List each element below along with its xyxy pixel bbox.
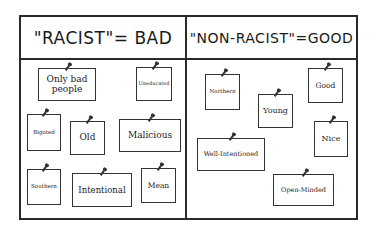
header-divider <box>19 58 358 60</box>
note-label: Open-Minded <box>281 187 326 194</box>
sticky-note-only-bad-people: Only bad people <box>38 68 96 101</box>
note-label: Mean <box>148 182 169 190</box>
sticky-note-uneducated: Uneducated <box>136 67 172 101</box>
sticky-note-open-minded: Open-Minded <box>273 174 334 206</box>
note-label: Good <box>316 82 336 90</box>
sticky-note-well-intentioned: Well-Intentioned <box>197 138 265 171</box>
sticky-note-old: Old <box>70 121 105 155</box>
note-label: Nice <box>322 135 341 143</box>
sticky-note-malicious: Malicious <box>119 119 181 152</box>
note-label: Well-Intentioned <box>204 151 259 158</box>
note-label: Only bad people <box>39 75 95 94</box>
note-label: Malicious <box>128 131 172 140</box>
sticky-note-southern: Southern <box>27 169 61 205</box>
racist-column-title: "RACIST"= BAD <box>21 17 185 58</box>
note-label: Southern <box>31 184 57 190</box>
sticky-note-nice: Nice <box>314 121 348 157</box>
note-label: Bigoted <box>33 130 55 136</box>
note-label: Uneducated <box>139 81 170 86</box>
non-racist-column-title: "NON-RACIST"=GOOD <box>187 17 356 58</box>
sticky-note-good: Good <box>308 68 343 103</box>
note-label: Old <box>79 133 95 142</box>
sticky-note-young: Young <box>258 94 293 128</box>
sticky-note-northern: Northern <box>205 74 240 110</box>
sticky-note-mean: Mean <box>141 168 176 203</box>
sticky-note-intentional: Intentional <box>72 173 132 207</box>
note-label: Young <box>263 107 288 115</box>
sticky-note-bigoted: Bigoted <box>27 114 61 151</box>
note-label: Intentional <box>78 186 125 195</box>
note-label: Northern <box>210 89 236 95</box>
